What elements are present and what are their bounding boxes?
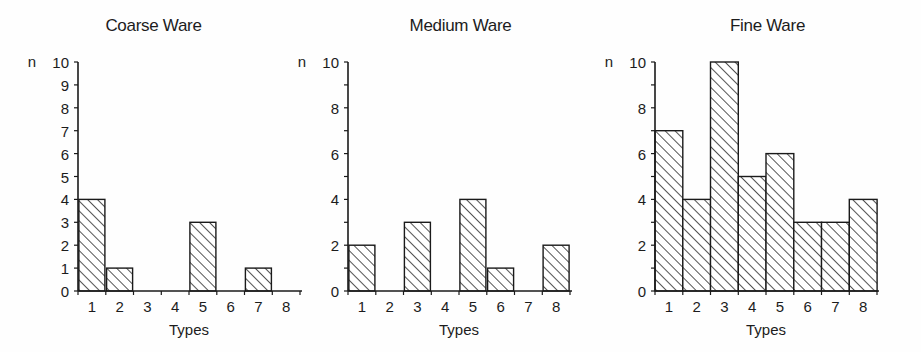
y-axis-tick-label: 10 (309, 54, 339, 71)
x-axis-tick-label: 8 (859, 298, 867, 315)
y-axis-tick-label: 4 (39, 191, 69, 208)
y-axis-tick-label: 0 (616, 283, 646, 300)
chart-title: Medium Ware (307, 16, 614, 36)
y-axis-tick-label: 8 (39, 99, 69, 116)
plot-area: 0246810n12345678Types (655, 62, 877, 291)
chart-panel: Coarse Ware012345678910n12345678Types (0, 0, 307, 352)
bar (738, 177, 766, 292)
bar (245, 268, 271, 291)
x-axis-tick-label: 3 (720, 298, 728, 315)
y-axis-label: n (28, 53, 36, 70)
x-axis-tick-label: 6 (496, 298, 504, 315)
chart-panel: Medium Ware0246810n12345678Types (307, 0, 614, 352)
y-axis-tick-label: 7 (39, 122, 69, 139)
bar (766, 154, 794, 291)
y-axis-tick-label: 8 (616, 99, 646, 116)
y-axis-tick-label: 1 (39, 260, 69, 277)
x-axis-tick-label: 2 (385, 298, 393, 315)
x-axis-tick-label: 2 (115, 298, 123, 315)
y-axis-tick-label: 9 (39, 76, 69, 93)
bar (794, 222, 822, 291)
x-axis-title: Types (746, 321, 786, 338)
y-axis-tick-label: 10 (39, 54, 69, 71)
y-axis-tick-label: 10 (616, 54, 646, 71)
bar (849, 199, 877, 291)
plot-area: 0246810n12345678Types (348, 62, 570, 291)
y-axis-tick-label: 2 (39, 237, 69, 254)
x-axis-tick-label: 1 (665, 298, 673, 315)
bar (683, 199, 711, 291)
x-axis-tick-label: 5 (776, 298, 784, 315)
bar (822, 222, 850, 291)
plot-area: 012345678910n12345678Types (78, 62, 300, 291)
y-axis-tick-label: 3 (39, 214, 69, 231)
bar (349, 245, 375, 291)
x-axis-tick-label: 7 (831, 298, 839, 315)
axes-and-bars (348, 62, 600, 303)
x-axis-tick-label: 6 (226, 298, 234, 315)
axes-and-bars (655, 62, 907, 303)
figure-bar-chart-triptych: Coarse Ware012345678910n12345678TypesMed… (0, 0, 921, 352)
x-axis-tick-label: 1 (358, 298, 366, 315)
y-axis-tick-label: 0 (309, 283, 339, 300)
y-axis-tick-label: 2 (309, 237, 339, 254)
bar (404, 222, 430, 291)
x-axis-tick-label: 4 (748, 298, 756, 315)
axes-and-bars (78, 62, 330, 303)
x-axis-tick-label: 3 (143, 298, 151, 315)
x-axis-tick-label: 8 (282, 298, 290, 315)
y-axis-tick-label: 6 (309, 145, 339, 162)
chart-title: Fine Ware (614, 16, 921, 36)
y-axis-tick-label: 2 (616, 237, 646, 254)
chart-panel: Fine Ware0246810n12345678Types (614, 0, 921, 352)
bar (460, 199, 486, 291)
y-axis-label: n (605, 53, 613, 70)
x-axis-title: Types (439, 321, 479, 338)
y-axis-label: n (298, 53, 306, 70)
x-axis-tick-label: 3 (413, 298, 421, 315)
bar (543, 245, 569, 291)
bar (79, 199, 105, 291)
y-axis-tick-label: 4 (616, 191, 646, 208)
bar (488, 268, 514, 291)
bar (655, 131, 683, 291)
x-axis-tick-label: 1 (88, 298, 96, 315)
bar (107, 268, 133, 291)
x-axis-tick-label: 5 (199, 298, 207, 315)
x-axis-tick-label: 4 (171, 298, 179, 315)
chart-title: Coarse Ware (0, 16, 307, 36)
x-axis-tick-label: 8 (552, 298, 560, 315)
x-axis-tick-label: 6 (803, 298, 811, 315)
x-axis-tick-label: 2 (692, 298, 700, 315)
bar (711, 62, 739, 291)
y-axis-tick-label: 6 (39, 145, 69, 162)
y-axis-tick-label: 0 (39, 283, 69, 300)
x-axis-tick-label: 7 (524, 298, 532, 315)
x-axis-tick-label: 4 (441, 298, 449, 315)
y-axis-tick-label: 8 (309, 99, 339, 116)
x-axis-tick-label: 7 (254, 298, 262, 315)
x-axis-tick-label: 5 (469, 298, 477, 315)
y-axis-tick-label: 6 (616, 145, 646, 162)
x-axis-title: Types (169, 321, 209, 338)
y-axis-tick-label: 4 (309, 191, 339, 208)
bar (190, 222, 216, 291)
y-axis-tick-label: 5 (39, 168, 69, 185)
